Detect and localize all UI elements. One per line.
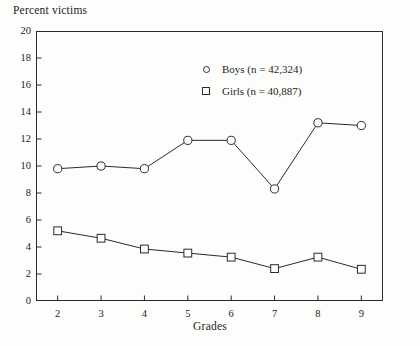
x-tick-label: 5 bbox=[176, 309, 200, 319]
data-point-marker bbox=[97, 234, 105, 242]
y-tick-label: 6 bbox=[1, 215, 31, 225]
square-marker-icon bbox=[199, 87, 213, 95]
x-tick-label: 3 bbox=[89, 309, 113, 319]
legend-label: Girls (n = 40,887) bbox=[222, 85, 302, 97]
data-point-marker bbox=[227, 136, 235, 144]
data-point-marker bbox=[184, 249, 192, 257]
x-tick-label: 4 bbox=[132, 309, 156, 319]
chart-figure: Percent victims 02468101214161820 234567… bbox=[0, 0, 420, 346]
y-tick-label: 4 bbox=[1, 242, 31, 252]
y-tick-label: 8 bbox=[1, 188, 31, 198]
data-point-marker bbox=[54, 227, 62, 235]
data-point-marker bbox=[357, 121, 365, 129]
y-axis-title: Percent victims bbox=[13, 4, 87, 16]
data-point-marker bbox=[314, 253, 322, 261]
y-tick-label: 20 bbox=[1, 26, 31, 36]
y-tick-label: 18 bbox=[1, 53, 31, 63]
data-point-marker bbox=[97, 162, 105, 170]
data-point-marker bbox=[357, 265, 365, 273]
legend-label: Boys (n = 42,324) bbox=[222, 63, 302, 75]
x-tick-label: 6 bbox=[219, 309, 243, 319]
y-tick-label: 0 bbox=[1, 296, 31, 306]
y-tick-label: 16 bbox=[1, 80, 31, 90]
data-point-marker bbox=[140, 165, 148, 173]
legend-entry: Girls (n = 40,887) bbox=[199, 80, 302, 102]
data-point-marker bbox=[54, 165, 62, 173]
y-tick-label: 10 bbox=[1, 161, 31, 171]
y-tick-label: 14 bbox=[1, 107, 31, 117]
x-tick-label: 2 bbox=[46, 309, 70, 319]
legend-entry: Boys (n = 42,324) bbox=[199, 58, 302, 80]
data-point-marker bbox=[270, 185, 278, 193]
data-point-marker bbox=[141, 245, 149, 253]
data-point-marker bbox=[271, 265, 279, 273]
y-tick-label: 12 bbox=[1, 134, 31, 144]
x-tick-label: 7 bbox=[263, 309, 287, 319]
y-tick-label: 2 bbox=[1, 269, 31, 279]
data-point-marker bbox=[227, 253, 235, 261]
x-axis-title: Grades bbox=[0, 320, 420, 332]
circle-marker-icon bbox=[199, 66, 213, 73]
data-point-marker bbox=[314, 119, 322, 127]
data-point-marker bbox=[184, 136, 192, 144]
chart-legend: Boys (n = 42,324)Girls (n = 40,887) bbox=[199, 58, 302, 102]
x-tick-label: 9 bbox=[349, 309, 373, 319]
x-tick-label: 8 bbox=[306, 309, 330, 319]
series-line bbox=[58, 123, 362, 189]
data-series-group bbox=[54, 119, 366, 273]
